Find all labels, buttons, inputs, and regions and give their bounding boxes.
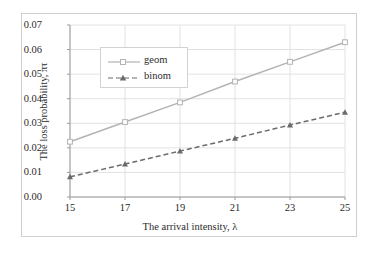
legend-label-geom: geom [144,55,167,66]
chart-legend: geom binom [100,47,188,88]
y-tick-label-0: 0.07 [8,20,42,31]
x-tick-label-1: 17 [113,203,137,214]
x-tick-label-5: 25 [333,203,357,214]
legend-item-binom: binom [107,68,181,84]
y-tick-label-7: 0.00 [8,192,42,203]
legend-swatch-geom-icon [107,54,141,66]
chart-plot-frame: 0.07 0.06 0.05 0.04 0.03 0.02 0.01 0.00 … [21,13,357,237]
legend-label-binom: binom [144,71,171,82]
x-tick-label-2: 19 [168,203,192,214]
x-tick-label-3: 21 [223,203,247,214]
x-axis-title: The arrival intensity, λ [22,221,358,232]
x-tick-label-0: 15 [58,203,82,214]
x-tick-label-4: 23 [278,203,302,214]
legend-item-geom: geom [107,52,181,68]
chart-figure: 0.07 0.06 0.05 0.04 0.03 0.02 0.01 0.00 … [0,0,375,254]
legend-swatch-binom-icon [107,70,141,82]
y-axis-title: The loss probability, πτ [38,42,49,182]
